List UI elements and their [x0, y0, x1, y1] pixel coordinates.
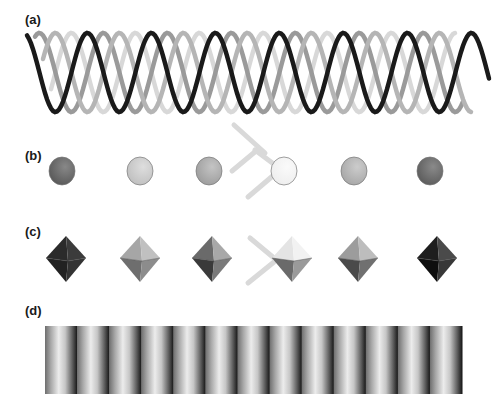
sphere — [196, 157, 222, 185]
stripe — [173, 326, 206, 394]
octahedron — [417, 236, 457, 282]
helix-panel — [27, 33, 489, 112]
stripe — [302, 326, 335, 394]
stripe — [205, 326, 238, 394]
stripe — [430, 326, 463, 394]
stripe — [45, 326, 78, 394]
stripe — [109, 326, 142, 394]
stripe — [334, 326, 367, 394]
stripe — [366, 326, 399, 394]
sphere — [271, 157, 297, 185]
stripe — [398, 326, 431, 394]
stripe-band — [45, 326, 463, 394]
stripe — [237, 326, 270, 394]
octahedron — [46, 236, 86, 282]
octahedron — [120, 236, 160, 282]
sphere — [417, 157, 443, 185]
faint-arrow-graphics — [232, 125, 275, 283]
octahedron — [192, 236, 232, 282]
stripe — [141, 326, 174, 394]
sphere — [127, 157, 153, 185]
stripe — [77, 326, 110, 394]
octahedron-row — [46, 236, 457, 282]
sphere — [49, 157, 75, 185]
octahedron — [338, 236, 378, 282]
stripe — [270, 326, 303, 394]
figure-canvas — [0, 0, 503, 411]
sphere — [341, 157, 367, 185]
octahedron — [272, 236, 312, 282]
